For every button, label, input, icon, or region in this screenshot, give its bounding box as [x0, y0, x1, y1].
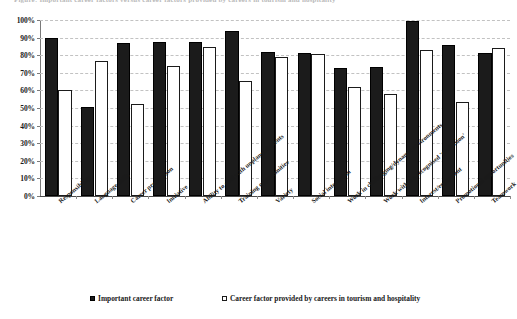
bar-provided — [348, 87, 361, 196]
y-tick-label: 50% — [20, 104, 35, 113]
bar-important — [298, 53, 311, 196]
y-tick-label: 90% — [20, 33, 35, 42]
bar-provided — [95, 61, 108, 196]
y-tick-label: 0% — [24, 192, 35, 201]
legend-label: Career factor provided by careers in tou… — [230, 294, 420, 303]
y-tick-label: 60% — [20, 86, 35, 95]
bar-important — [189, 42, 202, 196]
bar-provided — [275, 57, 288, 196]
x-tick-mark — [365, 196, 366, 199]
bar-provided — [167, 66, 180, 196]
x-tick-mark — [474, 196, 475, 199]
x-tick-mark — [112, 196, 113, 199]
x-tick-mark — [293, 196, 294, 199]
y-tick-label: 70% — [20, 68, 35, 77]
y-tick-label: 40% — [20, 121, 35, 130]
bar-provided — [311, 54, 324, 196]
bar-important — [45, 38, 58, 196]
y-tick-label: 100% — [17, 16, 35, 25]
hollow-square-swatch-icon — [222, 296, 227, 301]
bar-provided — [203, 47, 216, 196]
chart-figure: Figure: Important career factors versus … — [0, 0, 517, 319]
legend-item: Career factor provided by careers in tou… — [222, 294, 420, 303]
bar-provided — [239, 81, 252, 196]
y-tick-label: 20% — [20, 156, 35, 165]
bar-group — [40, 20, 76, 196]
y-tick-label: 30% — [20, 139, 35, 148]
x-tick-mark — [402, 196, 403, 199]
bar-provided — [456, 102, 469, 196]
x-tick-mark — [148, 196, 149, 199]
clipped-top-caption: Figure: Important career factors versus … — [14, 0, 494, 6]
x-tick-mark — [185, 196, 186, 199]
filled-square-swatch-icon — [90, 296, 95, 301]
bar-provided — [384, 94, 397, 196]
y-tick-label: 10% — [20, 174, 35, 183]
bar-provided — [131, 104, 144, 196]
y-tick-label: 80% — [20, 51, 35, 60]
chart-legend: Important career factorCareer factor pro… — [0, 292, 517, 308]
x-tick-mark — [510, 196, 511, 199]
bar-provided — [58, 90, 71, 196]
bar-group — [293, 20, 329, 196]
legend-label: Important career factor — [98, 294, 173, 303]
bar-group — [185, 20, 221, 196]
x-tick-mark — [257, 196, 258, 199]
legend-item: Important career factor — [90, 294, 173, 303]
x-tick-mark — [221, 196, 222, 199]
x-tick-mark — [438, 196, 439, 199]
bar-group — [112, 20, 148, 196]
x-tick-mark — [329, 196, 330, 199]
x-tick-mark — [76, 196, 77, 199]
y-tick-mark — [37, 196, 40, 197]
bar-group — [76, 20, 112, 196]
